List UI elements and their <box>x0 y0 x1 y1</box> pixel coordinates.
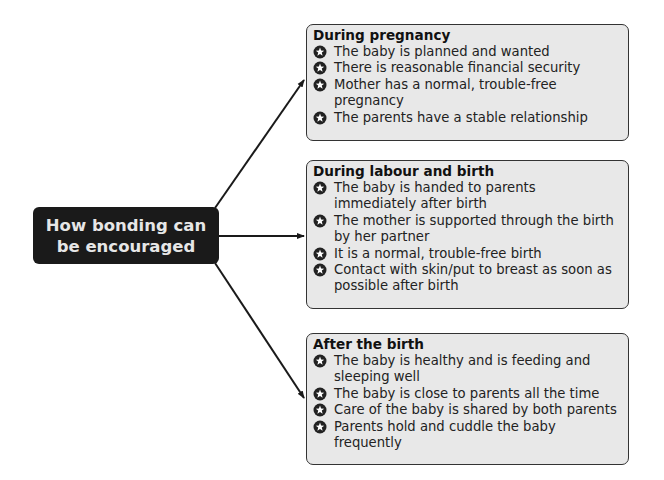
arrow-to-after-birth <box>215 263 304 398</box>
star-circle-icon <box>313 181 327 195</box>
box-title: During labour and birth <box>313 163 622 180</box>
central-topic: How bonding can be encouraged <box>33 207 219 264</box>
star-circle-icon <box>313 263 327 277</box>
box-title: During pregnancy <box>313 27 622 44</box>
star-circle-icon <box>313 403 327 417</box>
star-circle-icon <box>313 61 327 75</box>
arrow-to-pregnancy <box>215 80 304 208</box>
box-during-pregnancy: During pregnancy The baby is planned and… <box>306 24 629 141</box>
star-circle-icon <box>313 420 327 434</box>
star-circle-icon <box>313 111 327 125</box>
list-item: The baby is healthy and is feeding and s… <box>313 353 622 386</box>
box-after-the-birth: After the birth The baby is healthy and … <box>306 333 629 465</box>
list-item: The parents have a stable relationship <box>313 110 622 126</box>
list-item: The mother is supported through the birt… <box>313 213 622 246</box>
list-item: The baby is planned and wanted <box>313 44 622 60</box>
star-circle-icon <box>313 45 327 59</box>
list-item: Contact with skin/put to breast as soon … <box>313 262 622 295</box>
list-item: It is a normal, trouble-free birth <box>313 246 622 262</box>
list-item: There is reasonable financial security <box>313 60 622 76</box>
star-circle-icon <box>313 78 327 92</box>
list-item: Mother has a normal, trouble-free pregna… <box>313 77 622 110</box>
box-title: After the birth <box>313 336 622 353</box>
star-circle-icon <box>313 387 327 401</box>
star-circle-icon <box>313 247 327 261</box>
box-during-labour-and-birth: During labour and birth The baby is hand… <box>306 160 629 309</box>
list-item: Care of the baby is shared by both paren… <box>313 402 622 418</box>
star-circle-icon <box>313 214 327 228</box>
list-item: The baby is handed to parents immediatel… <box>313 180 622 213</box>
star-circle-icon <box>313 354 327 368</box>
central-topic-label: How bonding can be encouraged <box>37 215 215 257</box>
list-item: The baby is close to parents all the tim… <box>313 386 622 402</box>
list-item: Parents hold and cuddle the baby frequen… <box>313 419 622 452</box>
